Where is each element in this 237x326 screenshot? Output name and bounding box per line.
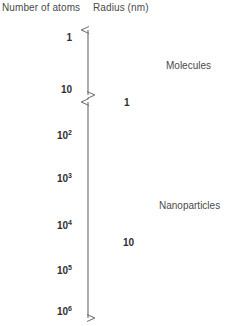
atom-tick-1e3-exponent: 3 — [68, 172, 72, 179]
atom-tick-1e5-mantissa: 10 — [57, 265, 68, 276]
atom-tick-1e4-exponent: 4 — [68, 219, 72, 226]
atom-tick-1e6-exponent: 6 — [68, 305, 72, 312]
atom-tick-10: 10 — [24, 84, 72, 95]
atom-tick-1e2: 102 — [24, 130, 72, 141]
category-label-molecules: Molecules — [166, 60, 211, 71]
atom-tick-1e2-mantissa: 10 — [57, 130, 68, 141]
atom-tick-1e4-mantissa: 10 — [57, 220, 68, 231]
atom-tick-1e2-exponent: 2 — [68, 129, 72, 136]
atom-tick-1e6: 106 — [24, 306, 72, 317]
atom-tick-10-mantissa: 10 — [61, 84, 72, 95]
atom-tick-1e3-mantissa: 10 — [57, 173, 68, 184]
atom-tick-1e6-mantissa: 10 — [57, 306, 68, 317]
atom-tick-1: 1 — [24, 32, 72, 43]
category-label-nanoparticles: Nanoparticles — [159, 200, 220, 211]
atom-tick-1e5: 105 — [24, 265, 72, 276]
radius-tick-1: 1 — [124, 97, 130, 108]
atom-tick-1e5-exponent: 5 — [68, 264, 72, 271]
radius-tick-10: 10 — [123, 237, 134, 248]
axis-arrows — [0, 0, 237, 326]
scale-diagram-figure: Number of atoms Radius (nm) 1 10 102 103… — [0, 0, 237, 326]
atom-tick-1-mantissa: 1 — [66, 32, 72, 43]
atom-tick-1e3: 103 — [24, 173, 72, 184]
atom-tick-1e4: 104 — [24, 220, 72, 231]
